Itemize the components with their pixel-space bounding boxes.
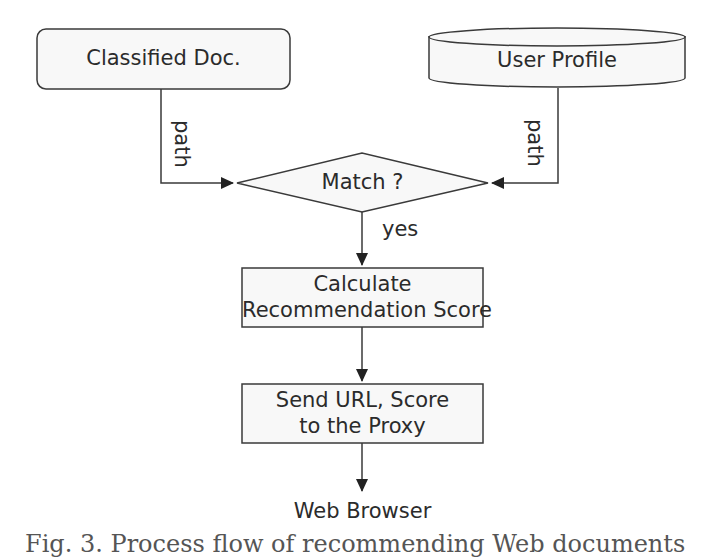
edge-label-yes: yes	[382, 216, 418, 243]
classified-doc-label: Classified Doc.	[37, 45, 290, 72]
send-label-line1: Send URL, Score	[242, 387, 483, 414]
match-label: Match ?	[237, 169, 488, 196]
send-label-line2: to the Proxy	[242, 413, 483, 440]
figure-caption: Fig. 3. Process flow of recommending Web…	[25, 530, 685, 558]
calculate-label-line2: Recommendation Score	[242, 297, 483, 324]
edge-label-path-right: path	[523, 119, 547, 167]
edge-label-path-left: path	[170, 120, 194, 168]
web-browser-label: Web Browser	[242, 498, 483, 525]
calculate-label-line1: Calculate	[242, 271, 483, 298]
user-profile-label: User Profile	[429, 47, 685, 74]
